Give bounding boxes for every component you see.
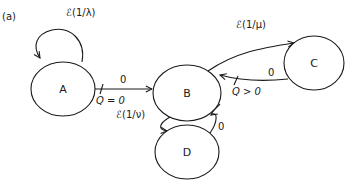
state-b-label: B — [183, 87, 191, 100]
state-c-label: C — [310, 57, 318, 70]
edge-b-to-c-label: ℰ(1/μ) — [236, 19, 266, 30]
guard-tick — [234, 76, 238, 85]
edge-a-to-b-label: 0 — [120, 74, 126, 85]
edge-d-to-b — [210, 114, 216, 133]
edge-a-to-b-guard: Q = 0 — [96, 95, 125, 106]
state-diagram: (a) ℰ(1/λ) 0 Q = 0 ℰ(1/μ) 0 Q > 0 ℰ(1/ν)… — [0, 0, 364, 192]
edge-c-to-b-guard: Q > 0 — [232, 86, 261, 97]
edge-b-to-c — [208, 43, 294, 71]
state-a-label: A — [59, 83, 67, 96]
state-d-label: D — [183, 146, 191, 159]
edge-b-to-d — [161, 117, 170, 131]
edge-a-self-label: ℰ(1/λ) — [66, 7, 96, 18]
edge-b-to-d-label: ℰ(1/ν) — [116, 109, 145, 120]
edge-d-to-b-label: 0 — [218, 121, 224, 132]
panel-label: (a) — [2, 11, 16, 22]
edge-a-self-loop — [36, 29, 83, 62]
edge-c-to-b — [220, 75, 288, 80]
edge-c-to-b-label: 0 — [268, 67, 274, 78]
